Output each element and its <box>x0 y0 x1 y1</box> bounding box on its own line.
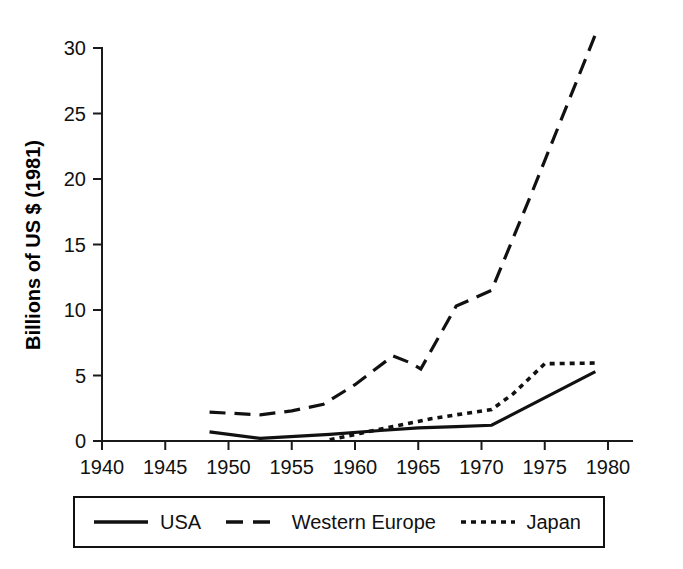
x-tick-label: 1940 <box>80 456 125 478</box>
x-tick-label: 1980 <box>586 456 631 478</box>
y-tick-label: 15 <box>64 234 86 256</box>
y-tick-label: 10 <box>64 299 86 321</box>
series-line-western-europe <box>210 28 598 414</box>
y-tick-label: 25 <box>64 103 86 125</box>
series-line-japan <box>330 363 596 440</box>
legend-item-western-europe: Western Europe <box>225 512 436 532</box>
x-tick-label: 1965 <box>396 456 441 478</box>
x-tick-label: 1975 <box>523 456 568 478</box>
legend-swatch-usa <box>93 516 149 528</box>
axes <box>102 48 632 441</box>
x-tick-label: 1970 <box>459 456 504 478</box>
y-axis-title: Billions of US $ (1981) <box>22 140 44 350</box>
y-axis-ticks: 051015202530 <box>64 37 102 452</box>
y-tick-label: 0 <box>75 430 86 452</box>
legend-item-usa: USA <box>93 512 201 532</box>
y-tick-label: 5 <box>75 365 86 387</box>
legend-item-japan: Japan <box>460 512 582 532</box>
y-tick-label: 20 <box>64 168 86 190</box>
y-tick-label: 30 <box>64 37 86 59</box>
x-tick-label: 1950 <box>206 456 251 478</box>
x-tick-label: 1945 <box>143 456 188 478</box>
chart-legend: USA Western Europe Japan <box>73 496 605 548</box>
data-series-group <box>210 28 598 439</box>
legend-swatch-western-europe <box>225 516 281 528</box>
line-chart-plot: 051015202530 194019451950195519601965197… <box>0 0 683 569</box>
legend-label-usa: USA <box>160 512 201 532</box>
legend-label-western-europe: Western Europe <box>292 512 436 532</box>
series-line-usa <box>210 372 596 439</box>
legend-swatch-japan <box>460 516 516 528</box>
x-tick-label: 1960 <box>333 456 378 478</box>
chart-figure: 051015202530 194019451950195519601965197… <box>0 0 683 569</box>
x-axis-ticks: 194019451950195519601965197019751980 <box>80 441 631 478</box>
x-tick-label: 1955 <box>270 456 315 478</box>
legend-label-japan: Japan <box>527 512 582 532</box>
